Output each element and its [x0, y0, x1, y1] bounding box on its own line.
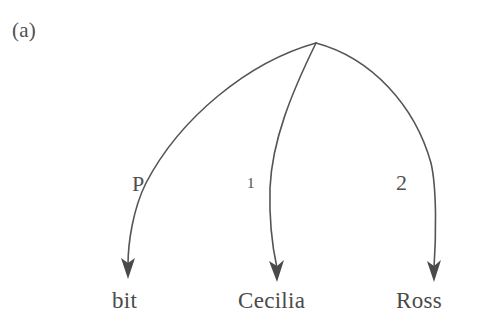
edge-label-p: P — [132, 173, 144, 195]
node-label-ross: Ross — [396, 289, 442, 312]
edge-label-1: 1 — [247, 176, 255, 191]
edge-label-2: 2 — [396, 172, 407, 194]
node-label-bit: bit — [112, 289, 137, 312]
panel-label: (a) — [12, 20, 36, 41]
edge-path-p — [128, 43, 316, 265]
arc-diagram-canvas — [0, 0, 493, 326]
edge-path-2 — [316, 43, 436, 268]
node-label-cecilia: Cecilia — [238, 289, 305, 312]
figure-root: (a) P 1 2 bit Cecilia Ross — [0, 0, 493, 326]
edge-path-1 — [270, 43, 316, 268]
